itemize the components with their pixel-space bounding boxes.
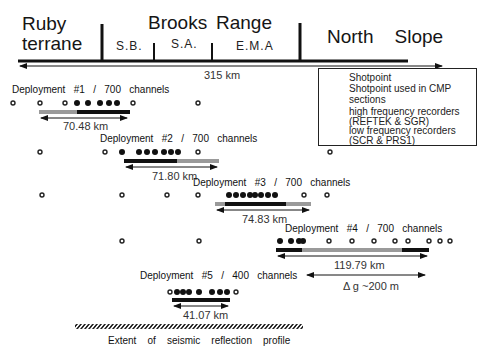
legend-shotpoint-label: Shotpoint xyxy=(349,72,391,83)
seismic-extent-hatch xyxy=(75,324,303,329)
deployment-3-length: 74.83 km xyxy=(242,213,287,225)
deployment-3-shotpoints xyxy=(40,193,329,197)
deployment-1-length: 70.48 km xyxy=(63,120,108,132)
legend-cmp-label-1: Shotpoint used in CMP xyxy=(349,83,451,94)
deployment-2-cmp-shotpoints xyxy=(119,149,181,155)
deployment-1-label: Deployment #1 / 700 channels xyxy=(12,84,169,95)
deployment-4-length: 119.79 km xyxy=(334,259,385,271)
deployment-1-cmp-shotpoints xyxy=(74,100,120,106)
deployment-5-label: Deployment #5 / 400 channels xyxy=(140,270,297,281)
legend-box: Shotpoint Shotpoint used in CMP sections… xyxy=(318,68,477,146)
deployment-5-length: 41.07 km xyxy=(183,309,228,321)
legend-low-freq-label-2: (SCR & PRS1) xyxy=(349,135,415,146)
legend-cmp-label-2: sections xyxy=(349,94,386,105)
deployment-4-cmp-shotpoints xyxy=(277,238,306,244)
deployment-2-label: Deployment #2 / 700 channels xyxy=(100,133,257,144)
deployment-4-shotpoints xyxy=(120,239,452,243)
deployment-3-label: Deployment #3 / 700 channels xyxy=(193,177,350,188)
deployment-3-cmp-shotpoints xyxy=(226,192,278,198)
deployment-4-spacing: Δ g ~200 m xyxy=(343,280,399,292)
seismic-extent-label: Extent of seismic reflection profile xyxy=(108,335,290,346)
deployment-4-label: Deployment #4 / 700 channels xyxy=(285,223,442,234)
deployment-2-length: 71.80 km xyxy=(152,170,197,182)
deployment-5-cmp-shotpoints xyxy=(174,289,230,295)
deployment-2-shotpoints xyxy=(38,150,332,154)
deployment-1-shotpoints xyxy=(11,101,332,105)
